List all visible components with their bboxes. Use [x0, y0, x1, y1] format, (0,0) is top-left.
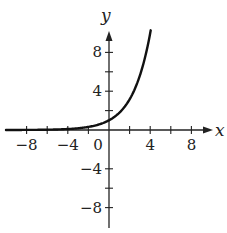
y-axis-arrow-icon	[106, 31, 113, 41]
x-tick-label: −4	[57, 136, 79, 154]
x-tick-label: 4	[145, 136, 155, 154]
y-tick-label: 8	[92, 43, 102, 61]
y-tick-label: −8	[80, 199, 102, 217]
x-tick-label: 8	[187, 136, 197, 154]
x-axis-arrow-icon	[203, 127, 213, 134]
y-tick-label: 4	[92, 82, 102, 100]
function-graph: −8−404884−4−8 x y	[0, 0, 227, 233]
exponential-curve	[6, 30, 151, 130]
x-tick-label: −8	[16, 136, 38, 154]
y-axis-label: y	[100, 5, 111, 25]
x-tick-label: 0	[93, 136, 103, 154]
y-tick-label: −4	[80, 160, 102, 178]
x-axis-label: x	[215, 120, 225, 140]
